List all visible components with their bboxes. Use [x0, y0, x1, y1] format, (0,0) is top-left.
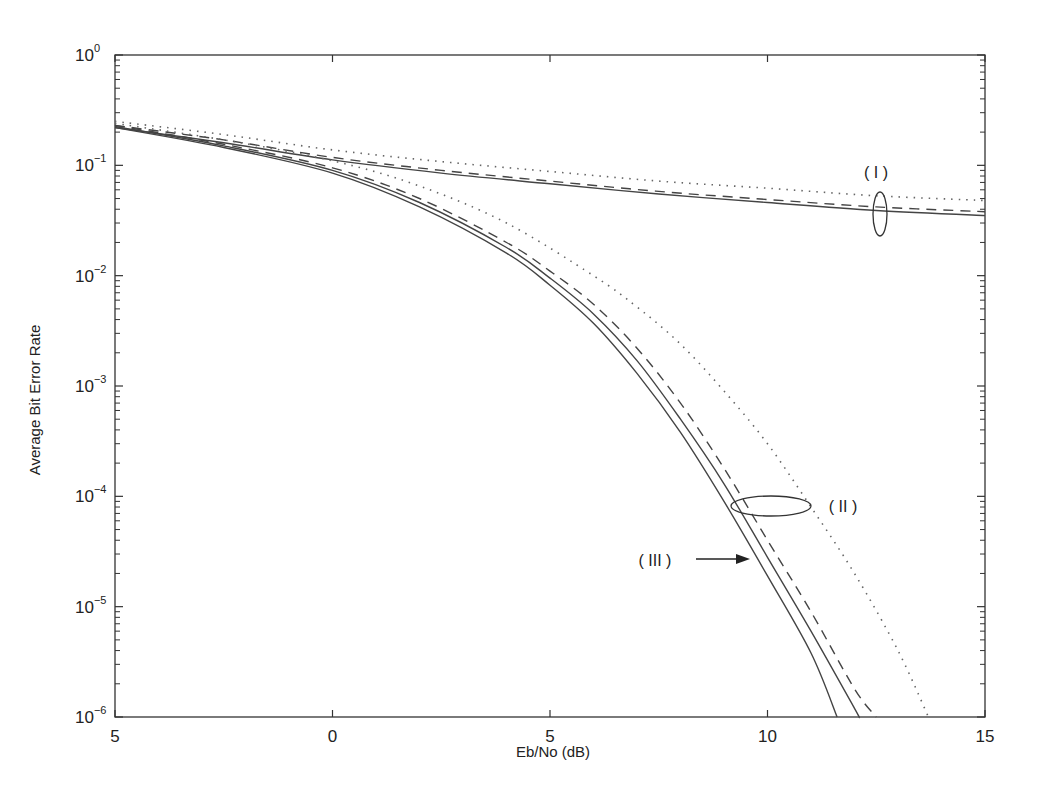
y-axis-label: Average Bit Error Rate	[26, 325, 43, 476]
curve-III-solid	[115, 128, 837, 717]
x-tick-label: 0	[328, 727, 337, 746]
x-tick-label: 15	[976, 727, 995, 746]
annotation-label-I: ( I )	[864, 164, 888, 181]
y-tick-label: 10−4	[75, 483, 106, 506]
plot-frame	[115, 55, 985, 717]
curve-II-dotted	[115, 123, 928, 717]
axis-ticks: 505101510010−110−210−310−410−510−6	[75, 42, 994, 746]
annotation-label-II: ( II )	[829, 498, 857, 515]
plot-area	[115, 55, 985, 717]
ber-chart: 505101510010−110−210−310−410−510−6 Eb/No…	[0, 0, 1041, 802]
annotation-label-III: ( III )	[639, 552, 672, 569]
curve-I-solid	[115, 128, 985, 216]
y-tick-label: 10−3	[75, 373, 106, 396]
ellipse-marker-I	[873, 192, 887, 236]
ellipse-marker-II	[731, 496, 811, 516]
x-tick-label: 10	[758, 727, 777, 746]
x-axis-label: Eb/No (dB)	[516, 743, 590, 760]
curve-I-dashed	[115, 125, 985, 211]
y-tick-label: 10−6	[75, 704, 106, 727]
curve-II-solid	[115, 127, 859, 718]
y-tick-label: 10−1	[75, 152, 106, 175]
y-tick-label: 100	[75, 42, 100, 65]
y-tick-label: 10−5	[75, 594, 106, 617]
y-tick-label: 10−2	[75, 263, 106, 286]
annotations	[696, 192, 887, 564]
arrow-III-head-icon	[736, 554, 750, 564]
x-tick-label: 5	[110, 727, 119, 746]
curve-II-dashed	[115, 125, 876, 717]
data-curves	[115, 121, 985, 717]
curve-I-dotted	[115, 121, 985, 200]
